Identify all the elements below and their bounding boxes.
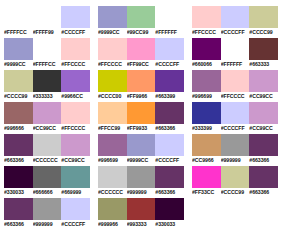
color-swatch[interactable]: [221, 102, 250, 124]
color-swatch[interactable]: [249, 134, 278, 156]
swatch-row: #333399#CCCCFF#CC99CC: [192, 102, 278, 133]
palette-column-2: #9999CC#99CC99#FFFFFF#FFCCCC#FF99CC#CCCC…: [94, 6, 188, 235]
color-swatch[interactable]: [192, 166, 221, 188]
color-swatch[interactable]: [221, 166, 250, 188]
color-swatch[interactable]: [192, 134, 221, 156]
color-palette-board: #FFFFCC#FFFF99#CCCCFF#9999CC#FFFFCC#FFCC…: [0, 0, 283, 235]
color-swatch[interactable]: [4, 70, 33, 92]
color-swatch[interactable]: [98, 134, 127, 156]
swatch-label-strip: #CC9966#999999#663366: [192, 156, 278, 165]
swatch-label-strip: #FFCC99#FF9933#663366: [98, 124, 184, 133]
color-swatch[interactable]: [127, 134, 156, 156]
swatch-hex-label: #CC99CC: [33, 124, 62, 133]
color-swatch[interactable]: [127, 166, 156, 188]
color-swatch[interactable]: [155, 102, 184, 124]
swatch-row: #FFCCCC#CCCCFF#CCCC99: [192, 6, 278, 37]
color-swatch[interactable]: [33, 70, 62, 92]
swatch-strip: [98, 134, 184, 156]
color-swatch[interactable]: [221, 70, 250, 92]
color-swatch[interactable]: [155, 6, 184, 28]
color-swatch[interactable]: [155, 134, 184, 156]
swatch-hex-label: #CCCC99: [249, 28, 278, 37]
color-swatch[interactable]: [33, 102, 62, 124]
color-swatch[interactable]: [33, 166, 62, 188]
swatch-hex-label: #663366: [4, 220, 33, 229]
swatch-hex-label: #CCCCFF: [155, 60, 184, 69]
color-swatch[interactable]: [33, 134, 62, 156]
color-swatch[interactable]: [33, 198, 62, 220]
color-swatch[interactable]: [155, 198, 184, 220]
swatch-strip: [4, 166, 90, 188]
color-swatch[interactable]: [33, 6, 62, 28]
color-swatch[interactable]: [249, 166, 278, 188]
swatch-hex-label: #FFFF99: [33, 28, 62, 37]
swatch-strip: [98, 102, 184, 124]
swatch-strip: [192, 38, 278, 60]
swatch-hex-label: #9999CC: [4, 60, 33, 69]
color-swatch[interactable]: [98, 198, 127, 220]
color-swatch[interactable]: [61, 102, 90, 124]
color-swatch[interactable]: [249, 38, 278, 60]
color-swatch[interactable]: [192, 38, 221, 60]
swatch-hex-label: #CCCCFF: [221, 124, 250, 133]
swatch-strip: [4, 6, 90, 28]
color-swatch[interactable]: [4, 134, 33, 156]
swatch-row: #660066#FFFFFF#663333: [192, 38, 278, 69]
color-swatch[interactable]: [98, 6, 127, 28]
color-swatch[interactable]: [221, 6, 250, 28]
color-swatch[interactable]: [221, 134, 250, 156]
color-swatch[interactable]: [98, 166, 127, 188]
swatch-label-strip: #CCCC00#FF9966#663399: [98, 92, 184, 101]
color-swatch[interactable]: [4, 6, 33, 28]
color-swatch[interactable]: [127, 6, 156, 28]
color-swatch[interactable]: [98, 38, 127, 60]
swatch-hex-label: #669999: [61, 188, 90, 197]
color-swatch[interactable]: [61, 38, 90, 60]
color-swatch[interactable]: [192, 6, 221, 28]
swatch-hex-label: #FF9966: [127, 92, 156, 101]
swatch-hex-label: #FF33CC: [192, 188, 221, 197]
color-swatch[interactable]: [192, 102, 221, 124]
color-swatch[interactable]: [127, 102, 156, 124]
swatch-label-strip: #FFCCCC#CCCCFF#CCCC99: [192, 28, 278, 37]
color-swatch[interactable]: [4, 38, 33, 60]
swatch-hex-label: #996699: [98, 156, 127, 165]
color-swatch[interactable]: [155, 70, 184, 92]
color-swatch[interactable]: [61, 198, 90, 220]
swatch-label-strip: #330033#666666#669999: [4, 188, 90, 197]
color-swatch[interactable]: [155, 166, 184, 188]
swatch-hex-label: #CC9966: [192, 156, 221, 165]
color-swatch[interactable]: [61, 6, 90, 28]
swatch-hex-label: #663366: [249, 156, 278, 165]
color-swatch[interactable]: [4, 166, 33, 188]
swatch-hex-label: #FFCCCC: [61, 124, 90, 133]
color-swatch[interactable]: [98, 102, 127, 124]
color-swatch[interactable]: [98, 70, 127, 92]
color-swatch[interactable]: [221, 38, 250, 60]
swatch-hex-label: #999999: [127, 188, 156, 197]
color-swatch[interactable]: [4, 198, 33, 220]
color-swatch[interactable]: [127, 70, 156, 92]
color-swatch[interactable]: [192, 70, 221, 92]
color-swatch[interactable]: [249, 6, 278, 28]
swatch-row: #9999CC#99CC99#FFFFFF: [98, 6, 184, 37]
color-swatch[interactable]: [61, 70, 90, 92]
swatch-label-strip: #996699#9999CC#CCCCFF: [98, 156, 184, 165]
color-swatch[interactable]: [127, 38, 156, 60]
swatch-hex-label: #999966: [98, 220, 127, 229]
swatch-hex-label: #666666: [33, 188, 62, 197]
color-swatch[interactable]: [249, 70, 278, 92]
color-swatch[interactable]: [249, 102, 278, 124]
color-swatch[interactable]: [155, 38, 184, 60]
swatch-hex-label: #9966CC: [61, 92, 90, 101]
swatch-hex-label: #CCCCCC: [98, 188, 127, 197]
swatch-strip: [98, 6, 184, 28]
swatch-strip: [4, 134, 90, 156]
color-swatch[interactable]: [61, 166, 90, 188]
color-swatch[interactable]: [127, 198, 156, 220]
swatch-hex-label: #FFFFFF: [155, 28, 184, 37]
swatch-row: #FFCCCC#FF99CC#CCCCFF: [98, 38, 184, 69]
color-swatch[interactable]: [61, 134, 90, 156]
color-swatch[interactable]: [33, 38, 62, 60]
color-swatch[interactable]: [4, 102, 33, 124]
